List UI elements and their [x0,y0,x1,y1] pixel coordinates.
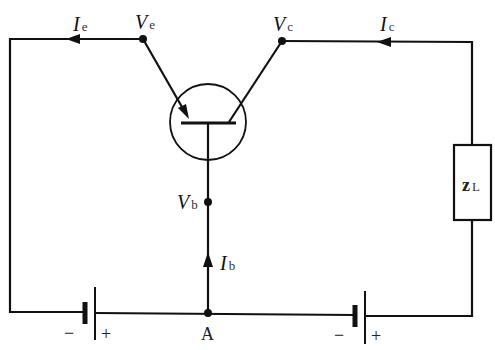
battery-right-pos-sign: + [371,326,381,346]
load-to-battery-wire [365,220,472,316]
label-ic: Ic [379,13,395,35]
battery-left-pos-sign: + [101,324,111,344]
label-vb: Vb [177,191,198,213]
vb-node [204,198,212,206]
ie-arrow-icon [66,34,80,44]
emitter-wire [10,39,143,312]
bottom-wire [95,313,355,315]
collector-wire [282,41,472,145]
emitter-arrow-icon [178,104,189,119]
label-node-a: A [201,324,214,344]
battery-left-neg-sign: − [64,323,74,343]
circuit-diagram: Ie Ve Vc Ic Vb Ib zL A − + − + [0,0,495,350]
collector-lead [229,41,282,122]
battery-right-neg-sign: − [334,325,344,345]
emitter-lead [143,39,186,114]
label-ib: Ib [219,252,235,274]
label-vc: Vc [273,13,293,35]
label-ie: Ie [72,13,88,35]
label-ve: Ve [135,11,155,33]
ve-node [139,35,147,43]
circuit-svg: Ie Ve Vc Ic Vb Ib zL A − + − + [0,0,495,350]
ic-arrow-icon [377,37,391,47]
ib-arrow-icon [203,252,213,267]
